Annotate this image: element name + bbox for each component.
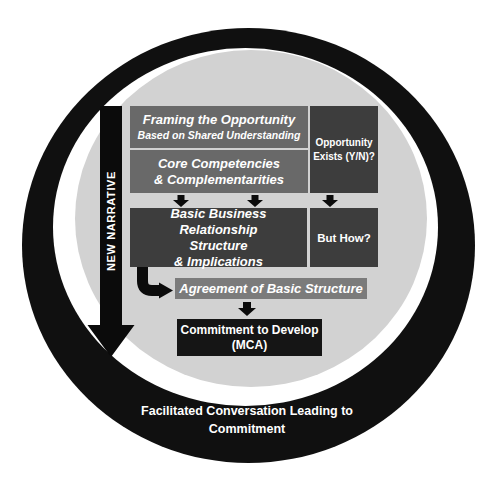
ring-caption: Facilitated Conversation Leading to Comm… — [137, 402, 357, 438]
caption-line1: Facilitated Conversation — [141, 404, 286, 418]
commitment-line1: Commitment to Develop — [180, 323, 318, 338]
core-line2: & Complementarities — [154, 172, 284, 188]
new-narrative-label: NEW NARRATIVE — [105, 171, 117, 271]
commitment-line2: (MCA) — [232, 338, 267, 353]
facilitated-conversation-diagram: NEW NARRATIVE Framing the Opportunity Ba… — [0, 0, 497, 488]
framing-title: Framing the Opportunity — [143, 112, 295, 128]
but-how-label: But How? — [317, 232, 371, 244]
core-competencies-box: Core Competencies & Complementarities — [130, 150, 308, 193]
commitment-to-develop-box: Commitment to Develop (MCA) — [177, 319, 322, 356]
framing-opportunity-box: Framing the Opportunity Based on Shared … — [130, 106, 308, 148]
framing-subtitle: Based on Shared Understanding — [138, 128, 301, 142]
basic-line1: Basic Business Relationship — [130, 206, 307, 238]
basic-line3: & Implications — [174, 254, 263, 270]
agreement-basic-structure-box: Agreement of Basic Structure — [175, 278, 367, 299]
opportunity-exists-box: Opportunity Exists (Y/N)? — [310, 106, 378, 193]
agreement-label: Agreement of Basic Structure — [179, 281, 363, 297]
basic-line2: Structure — [190, 238, 248, 254]
basic-business-relationship-box: Basic Business Relationship Structure & … — [130, 208, 307, 267]
core-line1: Core Competencies — [158, 156, 280, 172]
opportunity-line2: Exists (Y/N)? — [313, 150, 375, 164]
but-how-box: But How? — [310, 208, 378, 267]
opportunity-line1: Opportunity — [315, 136, 372, 150]
